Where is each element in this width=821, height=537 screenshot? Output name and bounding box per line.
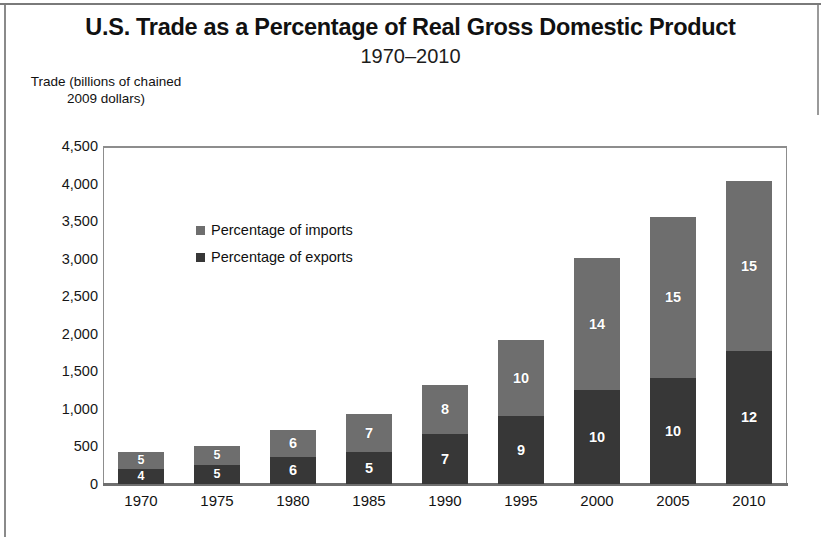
- bar-segment-imports[interactable]: 15: [650, 217, 696, 378]
- bar-group[interactable]: 75: [346, 414, 392, 484]
- chart-subtitle: 1970–2010: [0, 45, 821, 68]
- bar-value-label-exports: 7: [441, 452, 449, 467]
- y-axis-tick-label: 2,500: [26, 288, 98, 304]
- y-axis-tick-label: 4,500: [26, 138, 98, 154]
- x-axis-tick-label: 1990: [410, 492, 480, 509]
- y-axis-tick-label: 1,500: [26, 363, 98, 379]
- bar-value-label-exports: 6: [289, 463, 297, 478]
- bar-segment-imports[interactable]: 15: [726, 181, 772, 351]
- bar-value-label-exports: 4: [138, 470, 145, 483]
- bar-segment-exports[interactable]: 9: [498, 416, 544, 484]
- bar-segment-exports[interactable]: 5: [194, 465, 240, 484]
- bar-segment-imports[interactable]: 14: [574, 258, 620, 390]
- bar-group[interactable]: 109: [498, 340, 544, 484]
- bar-value-label-imports: 15: [741, 259, 757, 274]
- y-axis-tick-label: 1,000: [26, 401, 98, 417]
- y-axis-tick-label: 3,000: [26, 251, 98, 267]
- bar-value-label-imports: 15: [665, 290, 681, 305]
- bar-segment-exports[interactable]: 12: [726, 351, 772, 484]
- bar-value-label-exports: 5: [365, 461, 373, 476]
- bar-value-label-imports: 5: [138, 454, 145, 467]
- x-axis-tick-label: 2010: [714, 492, 784, 509]
- chart-legend: Percentage of importsPercentage of expor…: [196, 222, 353, 276]
- chart-figure: U.S. Trade as a Percentage of Real Gross…: [0, 0, 821, 537]
- bar-value-label-imports: 7: [365, 426, 373, 441]
- y-axis-tick-label: 2,000: [26, 326, 98, 342]
- y-axis-tick-label: 3,500: [26, 213, 98, 229]
- y-axis: 4,5004,0003,5003,0002,5002,0001,5001,000…: [22, 0, 98, 537]
- bar-value-label-exports: 5: [214, 468, 221, 481]
- bar-segment-imports[interactable]: 6: [270, 430, 316, 457]
- legend-item[interactable]: Percentage of exports: [196, 249, 353, 265]
- x-axis-tick-label: 1995: [486, 492, 556, 509]
- bar-group[interactable]: 55: [194, 446, 240, 484]
- y-axis-tick-label: 0: [26, 476, 98, 492]
- bar-value-label-exports: 10: [589, 430, 605, 445]
- bar-value-label-imports: 5: [214, 449, 221, 462]
- bar-value-label-imports: 8: [441, 402, 449, 417]
- legend-label: Percentage of imports: [211, 222, 353, 238]
- bar-segment-exports[interactable]: 5: [346, 452, 392, 484]
- y-axis-tick-label: 500: [26, 438, 98, 454]
- x-axis-tick-label: 2005: [638, 492, 708, 509]
- bar-segment-exports[interactable]: 7: [422, 434, 468, 484]
- bar-value-label-exports: 10: [665, 424, 681, 439]
- x-axis-tick-label: 1980: [258, 492, 328, 509]
- x-axis-tick-label: 1985: [334, 492, 404, 509]
- bar-segment-imports[interactable]: 10: [498, 340, 544, 416]
- bar-value-label-imports: 14: [589, 317, 605, 332]
- bar-segment-exports[interactable]: 10: [650, 378, 696, 484]
- page-frame-top-rule: [0, 3, 821, 5]
- bar-segment-exports[interactable]: 10: [574, 390, 620, 484]
- bar-segment-imports[interactable]: 8: [422, 385, 468, 434]
- x-axis-tick-label: 2000: [562, 492, 632, 509]
- bar-value-label-imports: 6: [289, 436, 297, 451]
- bar-segment-imports[interactable]: 5: [118, 452, 164, 469]
- bar-group[interactable]: 1410: [574, 258, 620, 484]
- x-axis-tick-label: 1970: [106, 492, 176, 509]
- legend-swatch-icon: [196, 226, 205, 235]
- legend-swatch-icon: [196, 253, 205, 262]
- bar-segment-exports[interactable]: 4: [118, 469, 164, 484]
- chart-title: U.S. Trade as a Percentage of Real Gross…: [0, 14, 821, 41]
- bar-group[interactable]: 66: [270, 430, 316, 484]
- legend-item[interactable]: Percentage of imports: [196, 222, 353, 238]
- y-axis-tick-label: 4,000: [26, 176, 98, 192]
- bar-segment-imports[interactable]: 5: [194, 446, 240, 465]
- page-frame-left-rule: [4, 5, 6, 537]
- bar-value-label-imports: 10: [513, 371, 529, 386]
- bar-group[interactable]: 1510: [650, 217, 696, 484]
- legend-label: Percentage of exports: [211, 249, 353, 265]
- bar-value-label-exports: 9: [517, 443, 525, 458]
- bar-value-label-exports: 12: [741, 410, 757, 425]
- bar-segment-exports[interactable]: 6: [270, 457, 316, 484]
- bar-group[interactable]: 1512: [726, 181, 772, 484]
- bar-segment-imports[interactable]: 7: [346, 414, 392, 452]
- bar-group[interactable]: 54: [118, 452, 164, 484]
- x-axis-tick-label: 1975: [182, 492, 252, 509]
- bar-group[interactable]: 87: [422, 385, 468, 484]
